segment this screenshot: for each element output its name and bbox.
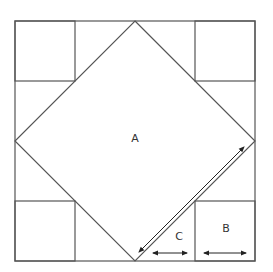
corner-square-top-left	[15, 21, 75, 81]
quilt-block-diagram: A C B	[0, 0, 273, 272]
label-a: A	[131, 132, 139, 145]
label-b: B	[222, 222, 230, 235]
dimension-arrow-a	[139, 147, 244, 252]
corner-square-top-right	[195, 21, 255, 81]
corner-square-bottom-left	[15, 201, 75, 261]
label-c: C	[175, 230, 183, 243]
